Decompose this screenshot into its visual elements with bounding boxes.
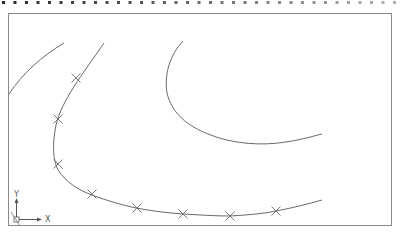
fit-point-x-icon[interactable] bbox=[272, 207, 281, 216]
fit-point-x-icon[interactable] bbox=[54, 115, 63, 124]
x-arrow-icon bbox=[37, 218, 42, 222]
ucs-icon: Y X bbox=[11, 190, 51, 226]
ucs-x-label: X bbox=[45, 215, 51, 224]
ucs-y-label: Y bbox=[13, 190, 19, 199]
curve-left-arc[interactable] bbox=[9, 43, 64, 94]
viewport-border bbox=[9, 14, 392, 226]
fit-point-markers bbox=[54, 74, 281, 221]
fit-point-x-icon[interactable] bbox=[54, 160, 63, 169]
curve-fit-spline[interactable] bbox=[54, 43, 322, 216]
drawing-canvas[interactable]: Y X bbox=[0, 0, 402, 232]
curve-right-hook[interactable] bbox=[166, 41, 322, 144]
